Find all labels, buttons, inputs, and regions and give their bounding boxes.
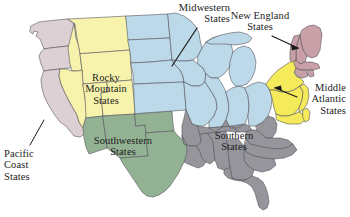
label-line: States xyxy=(288,105,346,116)
us-regions-map: Midwestern States New England States Mid… xyxy=(0,0,350,217)
label-line: Middle xyxy=(288,82,346,93)
label-line: Pacific xyxy=(4,148,62,159)
label-line: Rocky xyxy=(78,72,134,83)
label-line: Midwestern xyxy=(158,2,230,13)
label-pacific-coast-states: Pacific Coast States xyxy=(4,148,62,182)
label-line: States xyxy=(4,171,62,182)
label-southwestern-states: Southwestern States xyxy=(82,135,164,158)
label-new-england-states: New England States xyxy=(224,10,296,33)
label-rocky-mountain-states: Rocky Mountain States xyxy=(78,72,134,106)
label-midwestern-states: Midwestern States xyxy=(158,2,230,25)
label-line: States xyxy=(224,21,296,32)
label-line: Southern xyxy=(205,130,263,141)
label-line: Atlantic xyxy=(288,93,346,104)
label-line: States xyxy=(82,146,164,157)
label-line: Southwestern xyxy=(82,135,164,146)
label-line: New England xyxy=(224,10,296,21)
label-line: States xyxy=(158,13,230,24)
label-line: Mountain xyxy=(78,83,134,94)
label-line: States xyxy=(78,95,134,106)
label-line: Coast xyxy=(4,159,62,170)
label-line: States xyxy=(205,141,263,152)
label-southern-states: Southern States xyxy=(205,130,263,153)
label-middle-atlantic-states: Middle Atlantic States xyxy=(288,82,346,116)
